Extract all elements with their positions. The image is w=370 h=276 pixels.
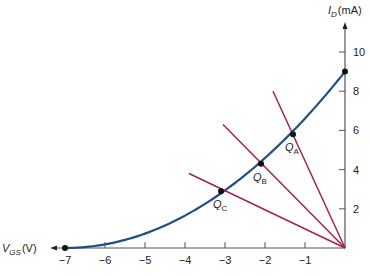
q-points: QAQBQC bbox=[213, 131, 300, 213]
q-point-label: QB bbox=[253, 171, 267, 186]
x-axis-arrow-icon bbox=[50, 246, 57, 251]
axis-labels: ID(mA) VGS(V) bbox=[2, 4, 362, 257]
jfet-transfer-chart: −7−6−5−4−3−2−1246810 QAQBQC ID(mA) VGS(V… bbox=[0, 0, 370, 276]
q-point-c bbox=[218, 188, 224, 194]
x-tick-label: −6 bbox=[99, 254, 112, 266]
q-point-b bbox=[258, 161, 264, 167]
y-tick-label: 8 bbox=[353, 85, 359, 97]
y-axis-title: ID(mA) bbox=[328, 4, 362, 19]
x-axis-title: VGS(V) bbox=[2, 242, 37, 257]
bias-line-b bbox=[223, 125, 345, 248]
x-tick-label: −3 bbox=[219, 254, 232, 266]
endpoint-dot bbox=[342, 69, 348, 75]
x-tick-label: −2 bbox=[259, 254, 272, 266]
y-tick-label: 2 bbox=[353, 203, 359, 215]
q-point-a bbox=[290, 131, 296, 137]
y-tick-label: 10 bbox=[353, 46, 365, 58]
x-tick-label: −4 bbox=[179, 254, 192, 266]
y-tick-label: 6 bbox=[353, 124, 359, 136]
x-tick-label: −5 bbox=[139, 254, 152, 266]
bias-lines bbox=[189, 91, 345, 248]
bias-line-c bbox=[189, 174, 345, 248]
x-tick-label: −7 bbox=[59, 254, 72, 266]
y-axis-arrow-icon bbox=[343, 22, 348, 29]
transfer-curve-path bbox=[65, 72, 345, 248]
endpoint-dot bbox=[62, 245, 68, 251]
y-tick-label: 4 bbox=[353, 164, 359, 176]
x-tick-label: −1 bbox=[299, 254, 312, 266]
axes: −7−6−5−4−3−2−1246810 bbox=[50, 22, 365, 266]
q-point-label: QC bbox=[213, 198, 228, 213]
